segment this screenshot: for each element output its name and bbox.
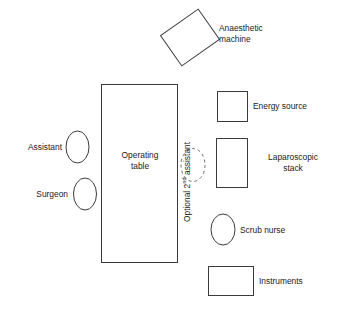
instruments-shape (209, 267, 254, 296)
anaesthetic-machine-label: Anaesthetic machine (219, 23, 331, 45)
operating-table-shape (102, 85, 178, 263)
scrub-nurse-shape (211, 214, 235, 245)
optional-second-assistant-label-prefix: Optional 2 (182, 184, 192, 222)
assistant-shape (66, 131, 89, 163)
energy-source-label: Energy source (253, 101, 338, 112)
laparoscopic-stack-label: Laparoscopic stack (251, 152, 335, 174)
optional-second-assistant-label: Optional 2nd assistant (182, 142, 192, 222)
operating-theatre-diagram: Anaesthetic machine Energy source Laparo… (0, 0, 338, 310)
surgeon-label: Surgeon (6, 189, 68, 200)
anaesthetic-machine-shape (161, 9, 220, 66)
scrub-nurse-label: Scrub nurse (240, 225, 332, 236)
assistant-label: Assistant (0, 142, 62, 153)
optional-second-assistant-label-suffix: assistant (182, 142, 192, 177)
instruments-label: Instruments (259, 276, 338, 287)
surgeon-shape (74, 178, 97, 210)
laparoscopic-stack-shape (217, 139, 248, 188)
energy-source-shape (218, 92, 248, 122)
optional-second-assistant-label-superscript: nd (181, 177, 187, 183)
operating-table-label: Operating table (109, 150, 171, 172)
